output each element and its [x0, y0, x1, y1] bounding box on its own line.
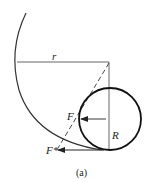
large-arc — [15, 13, 102, 150]
diagram-canvas: r R F F* (a) — [0, 0, 157, 182]
label-F: F — [66, 110, 74, 122]
label-R: R — [111, 129, 119, 141]
label-F-star: F* — [45, 144, 59, 156]
label-r: r — [52, 50, 57, 62]
caption: (a) — [76, 167, 87, 179]
